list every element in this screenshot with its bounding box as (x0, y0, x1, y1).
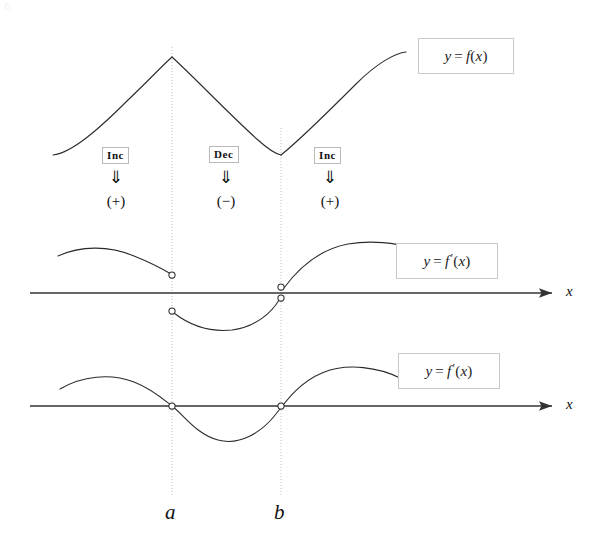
label-fpm-prime: ′ (449, 251, 453, 266)
label-box-fprime-bottom: y=f′(x) (398, 353, 500, 389)
interval-arrow-left: ⇓ (94, 169, 138, 186)
interval-tag-right: Inc (314, 147, 341, 164)
label-fx-equals: = (451, 48, 466, 65)
f-curve-decreasing-middle (172, 57, 281, 155)
panel-f-curve (53, 52, 406, 155)
label-fx-x: x (476, 48, 483, 65)
math-figure-svg (0, 0, 601, 544)
open-circle-b-left (278, 295, 284, 301)
label-fpb-close-paren: ) (467, 363, 472, 380)
tick-label-a: a (165, 500, 176, 525)
label-fpm-close-paren: ) (465, 253, 470, 270)
interval-sign-right: (+) (308, 194, 352, 209)
f-curve-increasing-right (281, 52, 406, 155)
label-fpb-x: x (460, 363, 467, 380)
interval-tag-middle: Dec (209, 146, 239, 163)
open-circle-a-right (169, 308, 175, 314)
f-curve-increasing-left (53, 57, 172, 155)
zero-crossing-a (169, 403, 175, 409)
interval-arrow-middle: ⇓ (204, 169, 248, 186)
tick-label-b: b (274, 500, 285, 525)
label-fpb-prime: ′ (451, 361, 455, 376)
label-fx-y: y (444, 48, 451, 65)
fprime-d-arc-middle (174, 300, 279, 330)
interval-sign-left: (+) (94, 194, 138, 209)
zero-crossing-b (278, 403, 284, 409)
label-fx-close-paren: ) (482, 48, 487, 65)
axis-label-x-middle: x (566, 283, 573, 300)
fprime-d-arc-left (58, 248, 171, 274)
fprime-c-curve (60, 367, 416, 441)
label-box-fprime-middle: y=f′(x) (396, 243, 498, 279)
open-circle-b-right (278, 284, 284, 290)
open-circle-a-left (169, 272, 175, 278)
label-fpb-y: y (426, 363, 433, 380)
label-fpm-equals: = (430, 253, 445, 270)
interval-sign-middle: (−) (204, 194, 248, 209)
label-box-fx: y=f(x) (418, 38, 514, 74)
interval-tag-left: Inc (102, 147, 129, 164)
interval-arrow-right: ⇓ (308, 169, 352, 186)
guide-lines (172, 47, 281, 497)
axis-label-x-bottom: x (566, 396, 573, 413)
fprime-d-arc-right (284, 242, 412, 288)
label-fpm-y: y (424, 253, 431, 270)
figure-canvas: © (0, 0, 601, 544)
label-fpb-equals: = (432, 363, 447, 380)
label-fpm-x: x (458, 253, 465, 270)
